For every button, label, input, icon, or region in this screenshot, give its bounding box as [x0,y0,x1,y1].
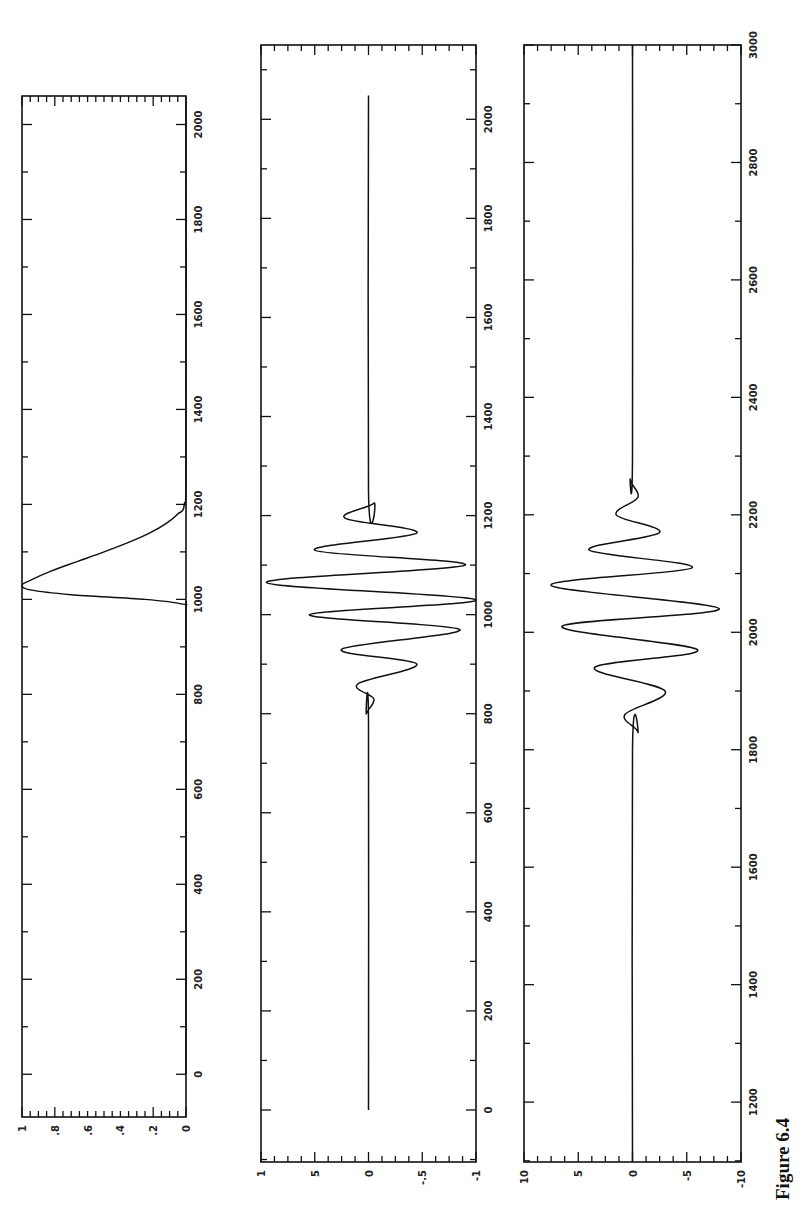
x-tick-label: 1600 [748,853,759,881]
x-tick-label: 2800 [748,149,759,177]
x-tick-label: 2200 [748,501,759,529]
y-tick-label: -.5 [417,1170,428,1185]
x-tick-label: 800 [193,684,204,705]
x-tick-label: 1400 [748,971,759,999]
y-tick-label: 1 [256,1170,267,1177]
x-tick-label: 1800 [193,206,204,234]
x-tick-label: 1200 [748,1088,759,1116]
y-tick-label: 0 [364,1170,375,1177]
y-tick-label: 0 [628,1170,639,1177]
figure-canvas: 02004006008001000120014001600180020000.2… [0,0,809,1211]
y-tick-label: 5 [573,1170,584,1177]
y-tick-label: .2 [148,1125,159,1136]
x-tick-label: 1800 [748,736,759,764]
y-tick-label: -5 [682,1170,693,1181]
x-tick-label: 400 [193,874,204,895]
x-tick-label: 1200 [483,502,494,530]
panel-2: 0200400600800100012001400160018002000-1-… [256,45,494,1185]
x-tick-label: 1600 [483,303,494,331]
x-tick-label: 2400 [748,383,759,411]
x-tick-label: 2000 [193,111,204,139]
data-series-line [22,102,187,1075]
panel-3: 1200140016001800200022002400260028003000… [519,31,759,1188]
y-tick-label: .4 [115,1125,126,1136]
x-tick-label: 1800 [483,204,494,232]
y-tick-label: 5 [310,1170,321,1177]
y-tick-label: -1 [471,1170,482,1181]
panel-1: 02004006008001000120014001600180020000.2… [17,96,204,1136]
y-tick-label: 10 [519,1170,530,1184]
x-tick-label: 600 [483,802,494,823]
x-tick-label: 3000 [748,31,759,59]
x-tick-label: 200 [193,969,204,990]
x-tick-label: 1400 [483,403,494,431]
x-tick-label: 1000 [483,601,494,629]
x-tick-label: 600 [193,779,204,800]
data-series-line [266,96,476,1110]
plot-frame [22,96,186,1117]
x-tick-label: 1400 [193,395,204,423]
x-tick-label: 400 [483,901,494,922]
x-tick-label: 0 [193,1071,204,1078]
y-tick-label: .8 [50,1125,61,1136]
x-tick-label: 2000 [748,618,759,646]
y-tick-label: -10 [736,1170,747,1188]
y-tick-label: 0 [181,1125,192,1132]
x-tick-label: 2000 [483,105,494,133]
y-tick-label: .6 [83,1125,94,1136]
x-tick-label: 0 [483,1106,494,1113]
x-tick-label: 1200 [193,490,204,518]
data-series-line [551,45,719,1162]
x-tick-label: 1000 [193,585,204,613]
x-tick-label: 1600 [193,300,204,328]
x-tick-label: 200 [483,1000,494,1021]
y-tick-label: 1 [17,1125,28,1132]
figure-caption: Figure 6.4 [772,1118,794,1200]
x-tick-label: 2600 [748,266,759,294]
x-tick-label: 800 [483,703,494,724]
